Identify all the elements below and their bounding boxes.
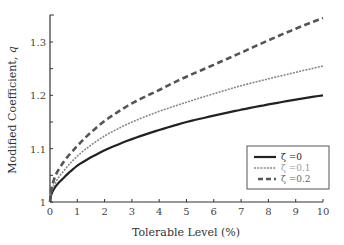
legend-label-1: ζ =0.1 xyxy=(281,163,311,173)
axis-ticks: 01234567891011.11.21.3 xyxy=(30,37,329,217)
chart: 01234567891011.11.21.3 Tolerable Level (… xyxy=(0,0,344,245)
y-tick-label: 1.3 xyxy=(30,37,46,48)
x-tick-label: 9 xyxy=(293,206,299,217)
y-axis-label: Modified Coefficient, q xyxy=(6,46,19,173)
legend-label-0: ζ =0 xyxy=(281,152,302,162)
x-tick-label: 7 xyxy=(238,206,244,217)
y-tick-label: 1 xyxy=(40,197,46,208)
y-axis-label-text: Modified Coefficient, xyxy=(6,53,19,173)
x-tick-label: 3 xyxy=(129,206,135,217)
x-tick-label: 1 xyxy=(74,206,80,217)
legend: ζ =0 ζ =0.1 ζ =0.2 xyxy=(247,146,329,189)
x-tick-label: 2 xyxy=(101,206,107,217)
x-tick-label: 10 xyxy=(317,206,330,217)
x-tick-label: 0 xyxy=(47,206,53,217)
x-tick-label: 6 xyxy=(211,206,217,217)
x-axis-label: Tolerable Level (%) xyxy=(132,226,240,239)
y-axis-label-var: q xyxy=(6,46,19,53)
x-tick-label: 5 xyxy=(183,206,189,217)
y-tick-label: 1.2 xyxy=(30,90,46,101)
x-tick-label: 8 xyxy=(265,206,271,217)
y-tick-label: 1.1 xyxy=(30,144,46,155)
legend-label-2: ζ =0.2 xyxy=(281,174,311,184)
x-tick-label: 4 xyxy=(156,206,162,217)
